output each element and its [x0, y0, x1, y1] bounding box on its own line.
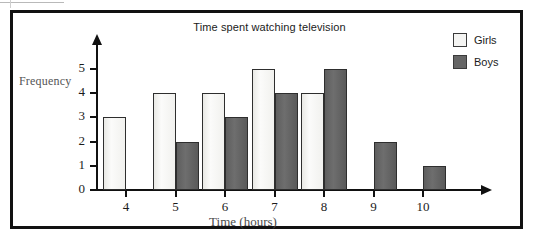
y-tick-5: [90, 68, 97, 70]
x-tick-5: [175, 191, 177, 197]
x-axis-title: Time (hours): [13, 214, 473, 230]
x-tick-9: [373, 191, 375, 197]
legend-swatch-boys-icon: [453, 55, 467, 69]
scan-artifact-tick: [10, 0, 11, 8]
bar-boys-6: [225, 117, 248, 190]
y-tick-label-2: 2: [63, 133, 85, 149]
x-tick-label-7: 7: [260, 199, 290, 215]
x-tick-label-5: 5: [161, 199, 191, 215]
y-tick-1: [90, 165, 97, 167]
bar-girls-4: [103, 117, 126, 190]
bar-boys-7: [275, 93, 298, 190]
legend-label-girls: Girls: [474, 34, 497, 46]
x-tick-10: [422, 191, 424, 197]
x-tick-label-6: 6: [210, 199, 240, 215]
chart-plot-area: Time spent watching television Girls Boy…: [13, 13, 526, 232]
x-tick-label-4: 4: [111, 199, 141, 215]
y-tick-3: [90, 116, 97, 118]
bar-girls-7: [252, 69, 275, 190]
figure-frame: Time spent watching television Girls Boy…: [10, 10, 523, 229]
x-tick-6: [224, 191, 226, 197]
x-axis-arrow-icon: [481, 185, 492, 195]
x-tick-label-8: 8: [309, 199, 339, 215]
y-tick-0: [90, 189, 97, 191]
bar-girls-8: [301, 93, 324, 190]
y-tick-label-5: 5: [63, 60, 85, 76]
bar-girls-6: [202, 93, 225, 190]
legend-item-boys: Boys: [453, 53, 525, 70]
bar-girls-5: [153, 93, 176, 190]
bar-boys-8: [324, 69, 347, 190]
y-tick-label-0: 0: [63, 181, 85, 197]
bar-boys-5: [176, 142, 199, 190]
x-tick-label-9: 9: [359, 199, 389, 215]
chart-title: Time spent watching television: [13, 21, 526, 33]
y-tick-4: [90, 92, 97, 94]
bar-boys-9: [374, 142, 397, 190]
y-tick-label-4: 4: [63, 84, 85, 100]
x-tick-label-10: 10: [408, 199, 438, 215]
chart-legend: Girls Boys: [453, 31, 525, 75]
legend-item-girls: Girls: [453, 31, 525, 48]
x-tick-8: [323, 191, 325, 197]
y-tick-label-3: 3: [63, 108, 85, 124]
legend-label-boys: Boys: [474, 56, 498, 68]
x-tick-7: [274, 191, 276, 197]
bar-boys-10: [423, 166, 446, 190]
y-tick-2: [90, 141, 97, 143]
x-tick-4: [125, 191, 127, 197]
y-tick-label-1: 1: [63, 157, 85, 173]
legend-swatch-girls-icon: [453, 33, 467, 47]
